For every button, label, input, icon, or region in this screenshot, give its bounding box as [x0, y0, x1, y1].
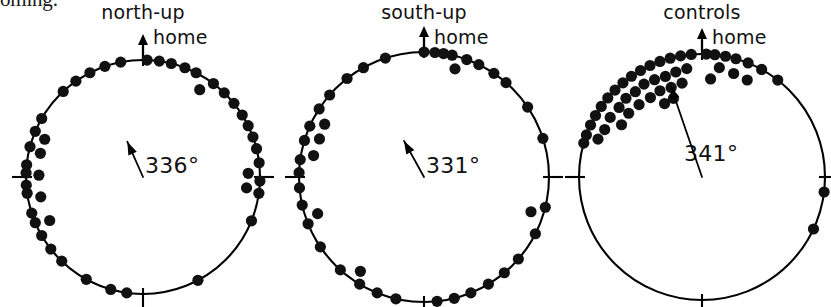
data-point	[670, 66, 681, 77]
data-point	[599, 124, 610, 135]
data-point	[675, 50, 686, 61]
data-point	[742, 74, 753, 85]
data-point	[665, 53, 676, 64]
data-point	[772, 74, 783, 85]
data-point	[686, 49, 697, 60]
data-point	[659, 98, 670, 109]
data-point	[645, 92, 656, 103]
data-point	[660, 71, 671, 82]
circular-plot-controls	[0, 0, 831, 307]
data-point	[616, 119, 627, 130]
data-point	[649, 74, 660, 85]
data-point	[714, 62, 725, 73]
data-point	[590, 110, 601, 121]
data-point	[638, 79, 649, 90]
data-point	[818, 186, 829, 197]
data-point	[592, 134, 603, 145]
data-point	[633, 99, 644, 110]
data-point	[728, 68, 739, 79]
data-point	[605, 112, 616, 123]
data-point	[808, 223, 819, 234]
data-point	[585, 119, 596, 130]
data-point	[630, 86, 641, 97]
data-point	[720, 51, 731, 62]
data-point	[654, 56, 665, 67]
data-point	[613, 102, 624, 113]
data-point	[730, 53, 741, 64]
data-point	[705, 73, 716, 84]
data-point	[681, 63, 692, 74]
data-point	[756, 64, 767, 75]
data-point	[623, 108, 634, 119]
panel-controls: controls home 341°	[0, 0, 831, 307]
data-point	[654, 85, 665, 96]
mean-vector-line	[671, 86, 702, 177]
circular-distribution-figure: oming. north-up home 336° south-up home …	[0, 0, 831, 307]
data-point	[709, 49, 720, 60]
data-point	[620, 93, 631, 104]
data-point	[578, 137, 589, 148]
data-point	[676, 78, 687, 89]
data-point	[644, 60, 655, 71]
data-point	[742, 57, 753, 68]
